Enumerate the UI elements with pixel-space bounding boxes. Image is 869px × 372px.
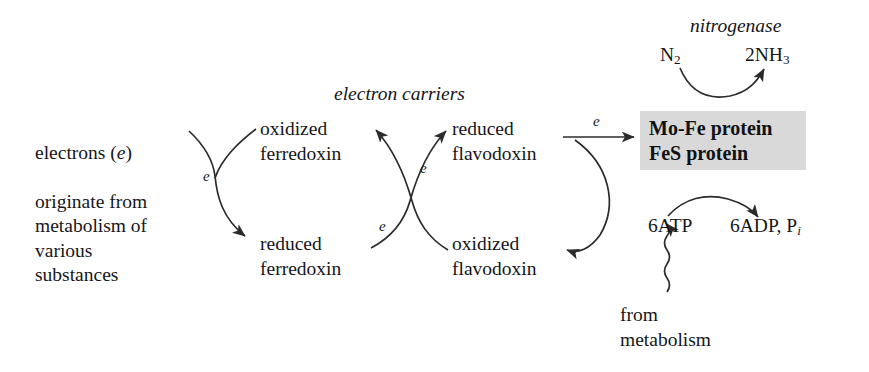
- n2-label: N2: [660, 43, 681, 71]
- from-metabolism-label: from metabolism: [620, 303, 711, 352]
- adp-formula-main: 6ADP, P: [730, 215, 797, 236]
- phosphate-subscript: i: [797, 223, 801, 238]
- n2-formula-main: N: [660, 44, 674, 65]
- arrow-nitrogenase-to-oxidized-flavodoxin: [567, 140, 609, 251]
- arrow-n2-to-nh3: [680, 68, 764, 97]
- oxidized-ferredoxin-label: oxidized ferredoxin: [260, 117, 341, 166]
- nitrogenase-protein-box: Mo-Fe protein FeS protein: [640, 111, 806, 170]
- nh3-formula-main: 2NH: [745, 44, 783, 65]
- electron-label-to-nitrogenase: e: [593, 113, 600, 130]
- nh3-subscript: 3: [783, 52, 790, 67]
- n2-subscript: 2: [674, 52, 681, 67]
- arrow-oxidized-flavodoxin-to-oxidized-ferredoxin: [376, 130, 448, 250]
- reduced-flavodoxin-label: reduced flavodoxin: [452, 117, 536, 166]
- electron-label-left: e: [203, 168, 210, 185]
- source-line-1: electrons (e): [35, 142, 132, 163]
- protein-box-text: Mo-Fe protein FeS protein: [649, 116, 773, 166]
- nh3-label: 2NH3: [745, 43, 790, 71]
- source-text-block: electrons (e) originate from metabolism …: [35, 116, 185, 288]
- electron-label-flavodoxin-to-ferredoxin: e: [420, 160, 427, 177]
- arrow-oxidized-ferredoxin-branch: [215, 129, 256, 178]
- source-remaining-lines: originate from metabolism of various sub…: [35, 191, 147, 286]
- electron-carriers-label: electron carriers: [334, 82, 465, 105]
- source-electron-symbol: e: [117, 142, 126, 163]
- oxidized-flavodoxin-label: oxidized flavodoxin: [452, 232, 536, 281]
- adp-label: 6ADP, Pi: [730, 214, 801, 242]
- nitrogenase-label: nitrogenase: [690, 14, 781, 37]
- diagram-canvas: electrons (e) originate from metabolism …: [0, 0, 869, 372]
- electron-label-ferredoxin-to-flavodoxin: e: [379, 218, 386, 235]
- atp-label: 6ATP: [648, 214, 692, 237]
- reduced-ferredoxin-label: reduced ferredoxin: [260, 232, 341, 281]
